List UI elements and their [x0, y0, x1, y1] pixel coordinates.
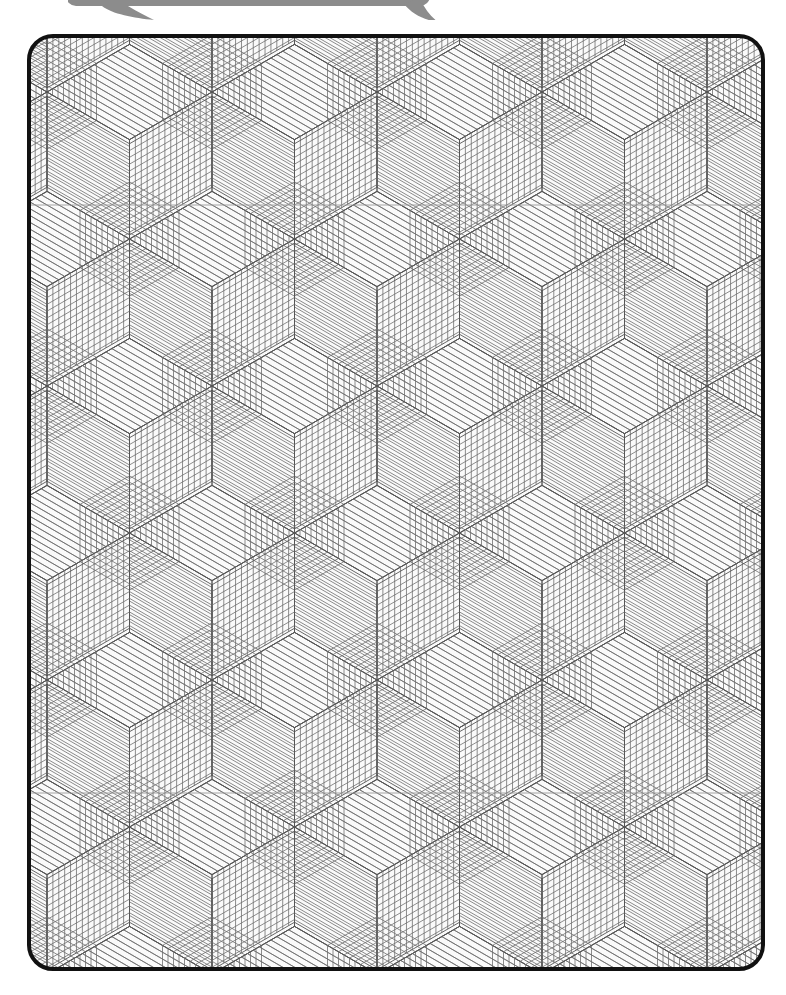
screenshot-root [0, 0, 786, 995]
speech-bubble-tail-point [404, 0, 438, 20]
speech-bubble-tail [68, 0, 448, 20]
speech-bubble-body [68, 0, 430, 20]
pattern-swatch-canvas [27, 34, 765, 971]
pattern-swatch-card[interactable] [27, 34, 765, 971]
swatch-background [29, 36, 763, 969]
